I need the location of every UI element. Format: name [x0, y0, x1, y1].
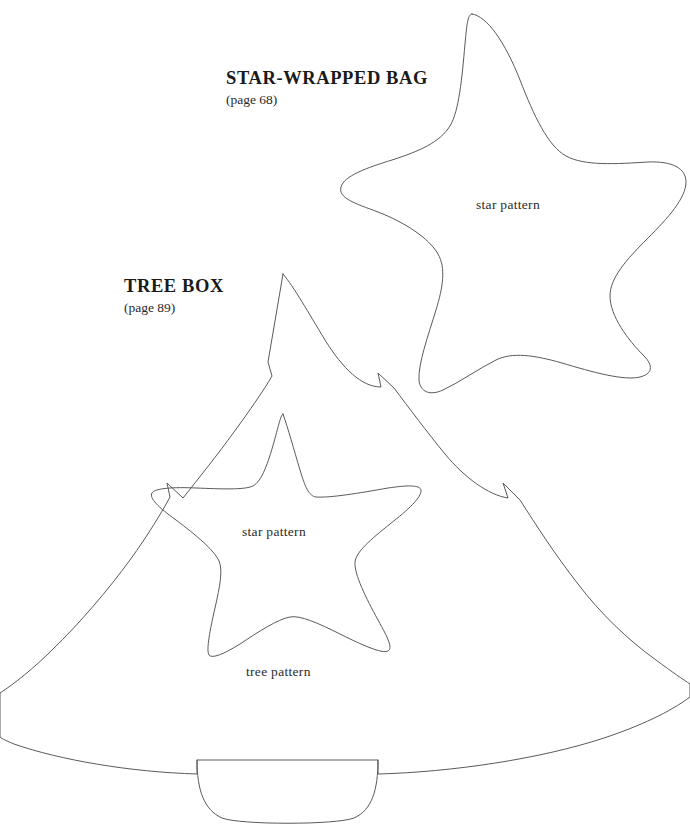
- page-reference-star-wrapped-bag: (page 68): [226, 92, 428, 109]
- heading-star-wrapped-bag: STAR-WRAPPED BAG (page 68): [226, 68, 428, 109]
- pattern-template-page: STAR-WRAPPED BAG (page 68) TREE BOX (pag…: [0, 0, 690, 837]
- page-reference-tree-box: (page 89): [124, 300, 224, 317]
- tree-trunk-outline: [197, 760, 378, 823]
- label-tree-pattern: tree pattern: [246, 664, 311, 680]
- heading-title-star-wrapped-bag: STAR-WRAPPED BAG: [226, 68, 428, 89]
- heading-title-tree-box: TREE BOX: [124, 276, 224, 297]
- heading-tree-box: TREE BOX (page 89): [124, 276, 224, 317]
- label-big-star-pattern: star pattern: [476, 197, 540, 213]
- tree-body-outline: [0, 274, 690, 774]
- label-inner-star-pattern: star pattern: [242, 524, 306, 540]
- pattern-artboard: [0, 0, 690, 837]
